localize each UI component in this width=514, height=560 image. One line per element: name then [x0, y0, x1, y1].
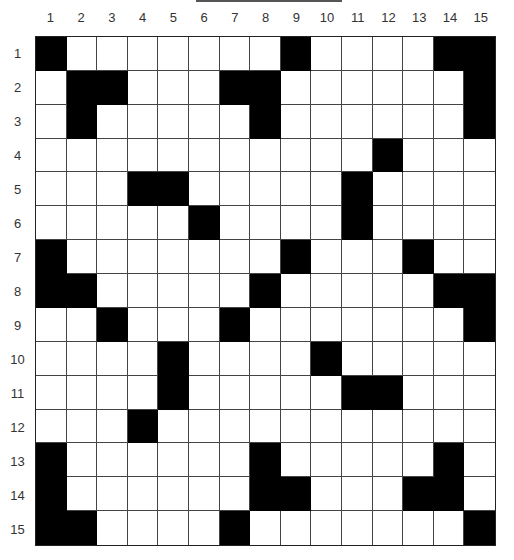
- white-cell[interactable]: [36, 172, 67, 206]
- white-cell[interactable]: [311, 139, 342, 173]
- white-cell[interactable]: [464, 376, 495, 410]
- white-cell[interactable]: [189, 511, 220, 545]
- white-cell[interactable]: [281, 376, 312, 410]
- white-cell[interactable]: [250, 410, 281, 444]
- white-cell[interactable]: [220, 172, 251, 206]
- white-cell[interactable]: [67, 410, 98, 444]
- white-cell[interactable]: [189, 172, 220, 206]
- white-cell[interactable]: [128, 206, 159, 240]
- white-cell[interactable]: [464, 206, 495, 240]
- white-cell[interactable]: [403, 139, 434, 173]
- white-cell[interactable]: [36, 308, 67, 342]
- white-cell[interactable]: [373, 410, 404, 444]
- white-cell[interactable]: [373, 37, 404, 71]
- white-cell[interactable]: [434, 410, 465, 444]
- white-cell[interactable]: [128, 443, 159, 477]
- white-cell[interactable]: [464, 342, 495, 376]
- white-cell[interactable]: [311, 206, 342, 240]
- white-cell[interactable]: [403, 410, 434, 444]
- white-cell[interactable]: [189, 477, 220, 511]
- white-cell[interactable]: [311, 511, 342, 545]
- white-cell[interactable]: [342, 240, 373, 274]
- white-cell[interactable]: [373, 511, 404, 545]
- white-cell[interactable]: [220, 139, 251, 173]
- white-cell[interactable]: [281, 410, 312, 444]
- white-cell[interactable]: [250, 342, 281, 376]
- white-cell[interactable]: [128, 308, 159, 342]
- white-cell[interactable]: [373, 240, 404, 274]
- white-cell[interactable]: [403, 37, 434, 71]
- white-cell[interactable]: [342, 274, 373, 308]
- white-cell[interactable]: [158, 308, 189, 342]
- white-cell[interactable]: [189, 376, 220, 410]
- white-cell[interactable]: [403, 342, 434, 376]
- white-cell[interactable]: [464, 477, 495, 511]
- white-cell[interactable]: [311, 240, 342, 274]
- white-cell[interactable]: [67, 376, 98, 410]
- white-cell[interactable]: [220, 206, 251, 240]
- white-cell[interactable]: [373, 477, 404, 511]
- white-cell[interactable]: [403, 206, 434, 240]
- white-cell[interactable]: [464, 240, 495, 274]
- white-cell[interactable]: [434, 240, 465, 274]
- white-cell[interactable]: [281, 172, 312, 206]
- white-cell[interactable]: [250, 376, 281, 410]
- white-cell[interactable]: [281, 71, 312, 105]
- white-cell[interactable]: [250, 206, 281, 240]
- white-cell[interactable]: [158, 71, 189, 105]
- white-cell[interactable]: [97, 240, 128, 274]
- white-cell[interactable]: [220, 477, 251, 511]
- white-cell[interactable]: [36, 376, 67, 410]
- white-cell[interactable]: [434, 139, 465, 173]
- white-cell[interactable]: [250, 172, 281, 206]
- white-cell[interactable]: [67, 37, 98, 71]
- white-cell[interactable]: [67, 308, 98, 342]
- white-cell[interactable]: [36, 71, 67, 105]
- white-cell[interactable]: [158, 410, 189, 444]
- white-cell[interactable]: [97, 139, 128, 173]
- white-cell[interactable]: [67, 172, 98, 206]
- white-cell[interactable]: [67, 443, 98, 477]
- white-cell[interactable]: [158, 443, 189, 477]
- white-cell[interactable]: [97, 105, 128, 139]
- white-cell[interactable]: [67, 342, 98, 376]
- white-cell[interactable]: [36, 342, 67, 376]
- white-cell[interactable]: [128, 71, 159, 105]
- white-cell[interactable]: [311, 477, 342, 511]
- white-cell[interactable]: [373, 71, 404, 105]
- white-cell[interactable]: [311, 308, 342, 342]
- white-cell[interactable]: [220, 443, 251, 477]
- white-cell[interactable]: [220, 376, 251, 410]
- white-cell[interactable]: [158, 37, 189, 71]
- white-cell[interactable]: [189, 240, 220, 274]
- white-cell[interactable]: [281, 511, 312, 545]
- white-cell[interactable]: [281, 139, 312, 173]
- white-cell[interactable]: [281, 206, 312, 240]
- white-cell[interactable]: [128, 511, 159, 545]
- white-cell[interactable]: [342, 410, 373, 444]
- white-cell[interactable]: [342, 443, 373, 477]
- white-cell[interactable]: [128, 105, 159, 139]
- white-cell[interactable]: [434, 105, 465, 139]
- white-cell[interactable]: [342, 511, 373, 545]
- white-cell[interactable]: [128, 37, 159, 71]
- white-cell[interactable]: [189, 342, 220, 376]
- white-cell[interactable]: [220, 240, 251, 274]
- white-cell[interactable]: [220, 105, 251, 139]
- white-cell[interactable]: [311, 274, 342, 308]
- white-cell[interactable]: [281, 105, 312, 139]
- white-cell[interactable]: [36, 206, 67, 240]
- white-cell[interactable]: [464, 139, 495, 173]
- white-cell[interactable]: [281, 308, 312, 342]
- white-cell[interactable]: [158, 240, 189, 274]
- white-cell[interactable]: [189, 410, 220, 444]
- white-cell[interactable]: [403, 443, 434, 477]
- white-cell[interactable]: [97, 342, 128, 376]
- white-cell[interactable]: [128, 274, 159, 308]
- white-cell[interactable]: [67, 477, 98, 511]
- white-cell[interactable]: [342, 308, 373, 342]
- white-cell[interactable]: [464, 410, 495, 444]
- white-cell[interactable]: [36, 410, 67, 444]
- white-cell[interactable]: [250, 308, 281, 342]
- white-cell[interactable]: [403, 511, 434, 545]
